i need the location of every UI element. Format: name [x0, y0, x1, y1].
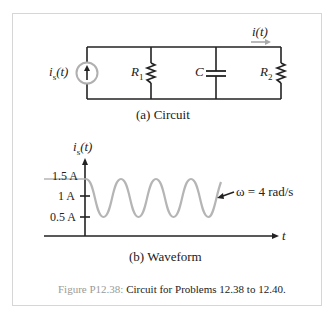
- current-source-icon: [77, 63, 98, 84]
- frequency-annotation: ω = 4 rad/s: [236, 184, 293, 200]
- tick-label-1-5: 1.5 A: [52, 169, 78, 184]
- source-label: is(t): [49, 64, 68, 82]
- y-axis-arrow-icon: [82, 158, 88, 165]
- capacitor-label: C: [195, 64, 204, 80]
- waveform-caption: (b) Waveform: [129, 249, 202, 265]
- sinusoid-curve: [86, 179, 221, 217]
- tick-label-0-5: 0.5 A: [50, 210, 76, 225]
- tick-label-1: 1 A: [58, 189, 75, 204]
- x-axis-arrow-icon: [272, 233, 279, 239]
- current-label: i(t): [252, 24, 268, 40]
- figure-number: Figure P12.38:: [58, 283, 123, 295]
- resistor-r2-icon: [277, 63, 285, 83]
- figure-caption-text: Circuit for Problems 12.38 to 12.40.: [123, 283, 285, 295]
- r1-label: R1: [131, 64, 143, 82]
- y-axis-label: is(t): [73, 139, 92, 157]
- circuit-wires: [87, 47, 281, 99]
- circuit-and-waveform-drawing: [0, 0, 332, 315]
- r2-label: R2: [260, 64, 272, 82]
- annotation-pointer-icon: [217, 192, 234, 199]
- capacitor-icon: [206, 71, 226, 76]
- circuit-caption: (a) Circuit: [136, 107, 190, 123]
- resistor-r1-icon: [147, 63, 155, 83]
- figure-caption: Figure P12.38: Circuit for Problems 12.3…: [58, 283, 286, 295]
- x-axis-label: t: [282, 228, 286, 244]
